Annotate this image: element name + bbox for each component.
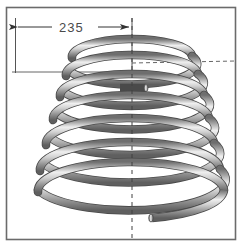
drawing-viewport: 235 bbox=[0, 0, 244, 249]
cad-drawing-canvas: 235 bbox=[0, 0, 244, 249]
spring-bottom-tube-end bbox=[149, 214, 153, 222]
spring-top-tube-end bbox=[144, 85, 148, 92]
dimension-value-label: 235 bbox=[59, 20, 84, 35]
